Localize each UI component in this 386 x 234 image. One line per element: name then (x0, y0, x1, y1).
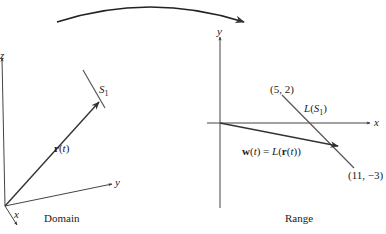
range-image-label: L(S1) (304, 103, 327, 117)
range-vector-label: w(t) = L(r(t)) (242, 146, 301, 157)
domain-vector-r (5, 102, 99, 206)
range-y-axis-label: y (217, 26, 222, 37)
diagram-canvas (0, 0, 386, 234)
domain-x-axis-label: x (14, 209, 19, 220)
domain-caption: Domain (44, 213, 79, 224)
domain-y-axis-label: y (115, 177, 120, 188)
domain-z-axis-label: z (0, 50, 4, 61)
range-x-axis-label: x (374, 117, 379, 128)
range-point-end-label: (11, −3) (348, 170, 383, 181)
mapping-arrow (57, 7, 244, 22)
domain-vector-label: r(t) (54, 143, 69, 154)
domain-z-axis (2, 58, 5, 206)
range-point-start-label: (5, 2) (270, 84, 294, 95)
domain-segment-label: S1 (99, 84, 109, 98)
range-caption: Range (285, 213, 313, 224)
